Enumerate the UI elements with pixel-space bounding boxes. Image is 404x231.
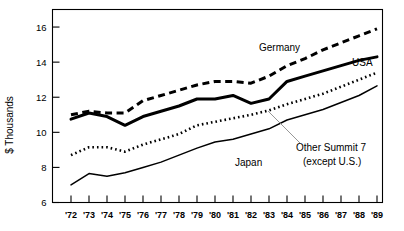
x-tick-label-77: '77 bbox=[155, 210, 167, 220]
x-tick-label-87: '87 bbox=[335, 210, 347, 220]
x-tick-label-86: '86 bbox=[317, 210, 329, 220]
line-chart: 6810121416 '72'73'74'75'76'77'78'79'80'8… bbox=[0, 0, 404, 231]
x-tick-label-82: '82 bbox=[245, 210, 257, 220]
x-tick-label-74: '74 bbox=[101, 210, 113, 220]
y-tick-label-10: 10 bbox=[36, 127, 47, 138]
x-tick-label-75: '75 bbox=[119, 210, 131, 220]
x-tick-label-81: '81 bbox=[227, 210, 239, 220]
x-tick-label-80: '80 bbox=[209, 210, 221, 220]
x-tick-label-76: '76 bbox=[137, 210, 149, 220]
x-tick-label-85: '85 bbox=[299, 210, 311, 220]
germany-label: Germany bbox=[259, 42, 300, 53]
x-tick-label-88: '88 bbox=[353, 210, 365, 220]
x-tick-label-84: '84 bbox=[281, 210, 293, 220]
y-tick-label-6: 6 bbox=[41, 197, 46, 208]
y-tick-label-14: 14 bbox=[36, 57, 47, 68]
usa-label: USA bbox=[352, 57, 373, 68]
y-axis-title: $ Thousands bbox=[4, 96, 15, 154]
chart-container: 6810121416 '72'73'74'75'76'77'78'79'80'8… bbox=[0, 0, 404, 231]
other-summit-label-line2: (except U.S.) bbox=[303, 156, 361, 167]
x-tick-label-83: '83 bbox=[263, 210, 275, 220]
japan-label: Japan bbox=[235, 157, 262, 168]
x-tick-label-89: '89 bbox=[371, 210, 383, 220]
x-tick-label-72: '72 bbox=[65, 210, 77, 220]
x-tick-label-78: '78 bbox=[173, 210, 185, 220]
y-tick-label-16: 16 bbox=[36, 22, 47, 33]
other-summit-label-line1: Other Summit 7 bbox=[296, 142, 366, 153]
x-tick-label-73: '73 bbox=[83, 210, 95, 220]
y-tick-label-12: 12 bbox=[36, 92, 47, 103]
x-tick-label-79: '79 bbox=[191, 210, 203, 220]
y-tick-label-8: 8 bbox=[41, 162, 46, 173]
